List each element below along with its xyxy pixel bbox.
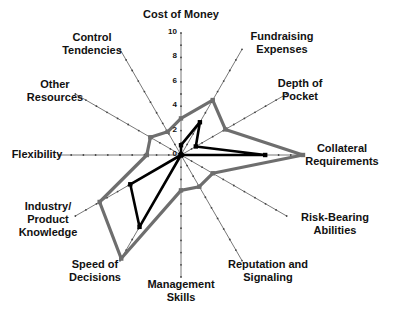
axis-tick-mark: [119, 154, 121, 156]
axis-tick-mark: [223, 228, 225, 230]
axis-tick-mark: [233, 185, 235, 187]
axis-tick-mark: [96, 105, 98, 107]
axis-tick-mark: [254, 111, 256, 113]
axis-tick-mark: [217, 217, 219, 219]
axis-tick-mark: [156, 154, 158, 156]
axis-tick-mark: [235, 59, 237, 61]
axis-label: Reputation and Signaling: [228, 258, 308, 284]
axis-tick-mark: [131, 70, 133, 72]
data-point-marker: [128, 182, 132, 186]
axis-tick-mark: [96, 203, 98, 205]
radial-tick-label: 6: [173, 76, 177, 85]
data-point-marker: [223, 127, 227, 131]
axis-tick-mark: [222, 179, 224, 181]
axis-tick-mark: [150, 101, 152, 103]
axis-label: Other Resources: [27, 78, 83, 104]
data-point-marker: [97, 200, 101, 204]
radial-tick-label: 10: [168, 27, 177, 36]
data-point-marker: [198, 120, 202, 124]
data-point-marker: [263, 153, 267, 157]
axis-tick-mark: [275, 209, 277, 211]
axis-tick-mark: [205, 112, 207, 114]
axis-tick-mark: [180, 93, 182, 95]
axis-tick-mark: [217, 91, 219, 93]
axis-tick-mark: [278, 154, 280, 156]
axis-tick-mark: [137, 80, 139, 82]
data-point-marker: [197, 184, 201, 188]
axis-tick-mark: [180, 227, 182, 229]
data-point-marker: [179, 116, 183, 120]
axis-tick-mark: [223, 80, 225, 82]
axis-tick-mark: [254, 197, 256, 199]
axis-tick-mark: [180, 179, 182, 181]
axis-tick-mark: [191, 148, 193, 150]
data-point-marker: [145, 153, 149, 157]
axis-tick-mark: [180, 215, 182, 217]
axis-tick-mark: [286, 215, 288, 217]
axis-tick-mark: [201, 142, 203, 144]
axis-tick-mark: [229, 239, 231, 241]
axis-tick-mark: [168, 154, 170, 156]
axis-tick-mark: [131, 154, 133, 156]
axis-tick-mark: [138, 130, 140, 132]
axis-tick-mark: [180, 69, 182, 71]
axis-tick-mark: [107, 154, 109, 156]
axis-label: Cost of Money: [143, 8, 219, 21]
axis-label: Flexibility: [12, 148, 63, 161]
axis-tick-mark: [243, 118, 245, 120]
axis-tick-mark: [241, 48, 243, 50]
axis-tick-mark: [186, 144, 188, 146]
axis-tick-mark: [290, 154, 292, 156]
axis-tick-mark: [180, 130, 182, 132]
radial-tick-label: 0: [173, 149, 177, 158]
radial-tick-label: 2: [173, 125, 177, 134]
axis-tick-mark: [174, 144, 176, 146]
axis-tick-mark: [170, 148, 172, 150]
radial-tick-label: 4: [173, 100, 177, 109]
data-point-marker: [137, 225, 141, 229]
axis-tick-mark: [125, 59, 127, 61]
axis-label: Fundraising Expenses: [251, 30, 314, 56]
axis-tick-mark: [95, 154, 97, 156]
axis-label: Risk-Bearing Abilities: [301, 211, 369, 237]
axis-tick-mark: [192, 133, 194, 135]
axis-label: Speed of Decisions: [69, 258, 121, 284]
axis-tick-mark: [106, 111, 108, 113]
axis-tick-mark: [85, 99, 87, 101]
axis-tick-mark: [265, 105, 267, 107]
axis-tick-mark: [127, 124, 129, 126]
axis-label: Control Tendencies: [62, 31, 122, 57]
data-point-marker: [211, 98, 215, 102]
axis-tick-mark: [180, 57, 182, 59]
data-point-marker: [179, 143, 183, 147]
axis-tick-mark: [131, 239, 133, 241]
axis-tick-mark: [83, 154, 85, 156]
axis-tick-mark: [233, 124, 235, 126]
axis-tick-mark: [162, 122, 164, 124]
axis-tick-mark: [211, 207, 213, 209]
axis-tick-mark: [180, 203, 182, 205]
axis-label: Industry/ Product Knowledge: [19, 200, 78, 239]
axis-tick-mark: [265, 203, 267, 205]
axis-tick-mark: [205, 196, 207, 198]
axis-tick-mark: [212, 136, 214, 138]
axis-tick-mark: [159, 142, 161, 144]
axis-tick-mark: [180, 105, 182, 107]
axis-tick-mark: [144, 91, 146, 93]
axis-tick-mark: [235, 249, 237, 251]
axis-tick-mark: [243, 191, 245, 193]
radar-series: [97, 98, 305, 261]
axis-tick-mark: [186, 165, 188, 167]
data-point-marker: [194, 144, 198, 148]
axis-tick-mark: [180, 166, 182, 168]
axis-tick-mark: [117, 191, 119, 193]
axis-tick-mark: [180, 44, 182, 46]
radial-tick-label: 8: [173, 51, 177, 60]
axis-label: Management Skills: [147, 278, 214, 304]
axis-tick-mark: [156, 112, 158, 114]
axis-label: Depth of Pocket: [278, 77, 323, 103]
data-point-marker: [165, 130, 169, 134]
axis-tick-mark: [192, 175, 194, 177]
data-point-marker: [179, 188, 183, 192]
data-point-marker: [210, 171, 214, 175]
